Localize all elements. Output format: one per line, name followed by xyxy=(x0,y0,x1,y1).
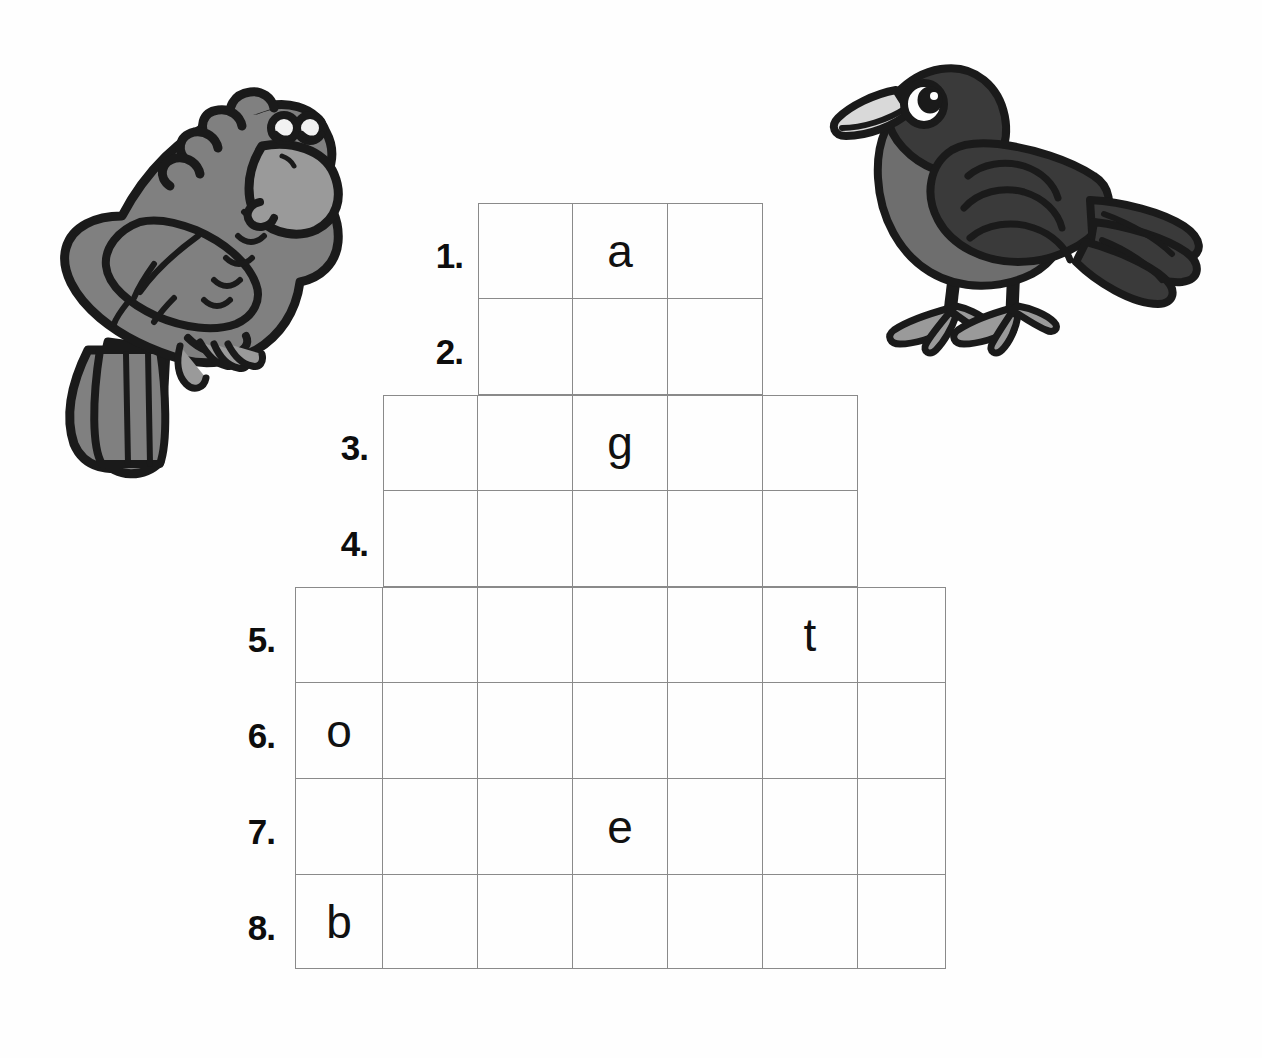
grid-row-1: a xyxy=(478,203,763,299)
grid-cell-r8c3[interactable] xyxy=(478,875,573,969)
grid-cell-r6c2[interactable] xyxy=(383,683,478,779)
grid-cell-r4c2[interactable] xyxy=(383,491,478,587)
grid-cell-r7c3[interactable] xyxy=(478,779,573,875)
grid-cell-r2c5[interactable] xyxy=(668,299,763,395)
grid-cell-r2c4[interactable] xyxy=(573,299,668,395)
grid-row-7: e xyxy=(295,779,946,875)
grid-cell-r5c1[interactable] xyxy=(295,587,383,683)
grid-row-6: o xyxy=(295,683,946,779)
grid-cell-r4c6[interactable] xyxy=(763,491,858,587)
grid-cell-r3c2[interactable] xyxy=(383,395,478,491)
grid-cell-r4c5[interactable] xyxy=(668,491,763,587)
grid-cell-r8c1[interactable]: b xyxy=(295,875,383,969)
row-label-1: 1. xyxy=(378,236,463,276)
grid-cell-r2c3[interactable] xyxy=(478,299,573,395)
grid-cell-r8c6[interactable] xyxy=(763,875,858,969)
grid-cell-r6c7[interactable] xyxy=(858,683,946,779)
worksheet-page: 1. a 2. 3. g 4. xyxy=(0,0,1262,1058)
row-label-4: 4. xyxy=(283,524,368,564)
grid-cell-r6c3[interactable] xyxy=(478,683,573,779)
grid-cell-r3c3[interactable] xyxy=(478,395,573,491)
grid-cell-r5c3[interactable] xyxy=(478,587,573,683)
grid-cell-r7c6[interactable] xyxy=(763,779,858,875)
grid-cell-r6c5[interactable] xyxy=(668,683,763,779)
grid-row-8: b xyxy=(295,875,946,969)
grid-cell-r6c1[interactable]: o xyxy=(295,683,383,779)
grid-cell-r7c7[interactable] xyxy=(858,779,946,875)
row-label-6: 6. xyxy=(190,716,275,756)
grid-cell-r7c4[interactable]: e xyxy=(573,779,668,875)
grid-row-2 xyxy=(478,299,763,395)
grid-cell-r5c2[interactable] xyxy=(383,587,478,683)
row-label-5: 5. xyxy=(190,620,275,660)
grid-cell-r7c2[interactable] xyxy=(383,779,478,875)
grid-cell-r5c7[interactable] xyxy=(858,587,946,683)
grid-cell-r8c2[interactable] xyxy=(383,875,478,969)
grid-cell-r8c5[interactable] xyxy=(668,875,763,969)
grid-cell-r4c3[interactable] xyxy=(478,491,573,587)
grid-cell-r6c6[interactable] xyxy=(763,683,858,779)
row-label-8: 8. xyxy=(190,908,275,948)
grid-cell-r3c4[interactable]: g xyxy=(573,395,668,491)
grid-cell-r1c4[interactable]: a xyxy=(573,203,668,299)
grid-cell-r5c6[interactable]: t xyxy=(763,587,858,683)
row-label-2: 2. xyxy=(378,332,463,372)
grid-cell-r8c7[interactable] xyxy=(858,875,946,969)
grid-row-4 xyxy=(383,491,858,587)
grid-cell-r5c5[interactable] xyxy=(668,587,763,683)
row-label-7: 7. xyxy=(190,812,275,852)
grid-cell-r8c4[interactable] xyxy=(573,875,668,969)
grid-row-5: t xyxy=(295,587,946,683)
puzzle-grid: 1. a 2. 3. g 4. xyxy=(0,0,1262,1058)
grid-cell-r1c3[interactable] xyxy=(478,203,573,299)
row-label-3: 3. xyxy=(283,428,368,468)
grid-cell-r3c5[interactable] xyxy=(668,395,763,491)
grid-cell-r1c5[interactable] xyxy=(668,203,763,299)
grid-cell-r7c1[interactable] xyxy=(295,779,383,875)
grid-cell-r4c4[interactable] xyxy=(573,491,668,587)
grid-cell-r7c5[interactable] xyxy=(668,779,763,875)
grid-cell-r6c4[interactable] xyxy=(573,683,668,779)
grid-cell-r3c6[interactable] xyxy=(763,395,858,491)
grid-row-3: g xyxy=(383,395,858,491)
grid-cell-r5c4[interactable] xyxy=(573,587,668,683)
